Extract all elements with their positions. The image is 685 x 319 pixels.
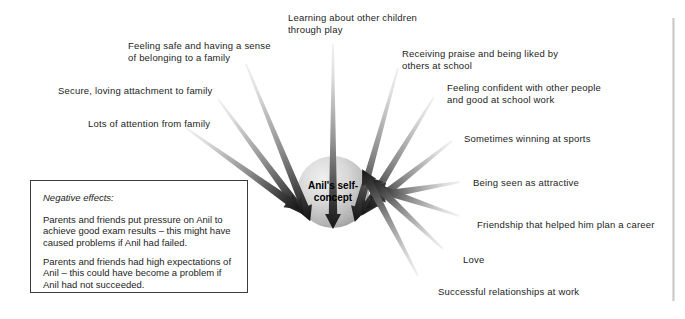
- influence-label-lots-of-attention: Lots of attention from family: [88, 118, 210, 130]
- influence-label-love: Love: [463, 254, 484, 266]
- influence-label-feeling-confident: Feeling confident with other people and …: [447, 82, 601, 105]
- influence-label-friendship-career: Friendship that helped him plan a career: [477, 219, 655, 231]
- influence-label-sometimes-winning-sports: Sometimes winning at sports: [464, 133, 591, 145]
- influence-label-successful-relationships: Successful relationships at work: [438, 286, 579, 298]
- influence-label-secure-loving-attachment: Secure, loving attachment to family: [58, 85, 213, 97]
- negative-effects-paragraph-1: Parents and friends put pressure on Anil…: [43, 214, 243, 248]
- influence-label-learning-through-play: Learning about other children through pl…: [288, 12, 417, 35]
- negative-effects-box: Negative effects: Parents and friends pu…: [30, 180, 248, 293]
- influence-label-feeling-safe-belonging: Feeling safe and having a sense of belon…: [128, 40, 271, 63]
- influence-label-receiving-praise: Receiving praise and being liked by othe…: [402, 48, 558, 71]
- diagram-canvas: Anil's self- concept Feeling safe and ha…: [0, 0, 685, 319]
- negative-effects-paragraph-2: Parents and friends had high expectation…: [43, 256, 243, 290]
- influence-label-being-seen-attractive: Being seen as attractive: [473, 177, 579, 189]
- negative-effects-title: Negative effects:: [43, 192, 114, 203]
- page-edge-rule: [672, 18, 675, 301]
